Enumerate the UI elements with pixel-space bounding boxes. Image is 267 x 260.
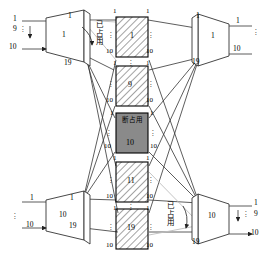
- mid-5-bottom-right: 10: [146, 242, 153, 249]
- mid-5-left-dots: ...: [110, 222, 112, 230]
- mid-2-right-dots: ...: [150, 79, 152, 87]
- mid-5-bottom-left: 10: [106, 242, 113, 249]
- in-top-label-1: 1: [13, 15, 17, 23]
- out-top-in-1: 1: [196, 12, 200, 20]
- occupied-label-top: 已占用: [95, 21, 104, 47]
- out-bottom-out-10: 10: [251, 229, 259, 237]
- mid-3-right-dots: ...: [152, 128, 154, 136]
- out-top-module-label: 1: [211, 32, 215, 40]
- in-top-out-1: 1: [68, 12, 72, 20]
- mid-4-top-right: 1: [146, 155, 150, 162]
- mid-1-bottom-right: 10: [146, 48, 153, 55]
- mid-1-inner: 1: [130, 32, 134, 40]
- mid-1-top-left: 1: [113, 8, 117, 15]
- in-bottom-label-10: 10: [26, 221, 34, 229]
- mid-5-top-left: 1: [113, 205, 117, 212]
- in-bottom-out-1: 1: [70, 194, 74, 202]
- input-module-bottom[interactable]: [46, 191, 90, 244]
- mid-5-inner: 19: [127, 224, 135, 232]
- in-top-dots: ...: [22, 24, 24, 32]
- out-bottom-module-label: 10: [208, 212, 216, 220]
- out-top-out-10: 10: [233, 45, 241, 53]
- mid-4-inner: 11: [127, 177, 135, 185]
- occupied-label-bottom: 已占用: [166, 202, 175, 228]
- mid-3-top-right: 1: [150, 110, 154, 117]
- mid-3-inner: 10: [126, 139, 134, 147]
- mid-3-bottom-right: 10: [150, 143, 157, 150]
- out-top-in-19: 19: [192, 58, 200, 66]
- mid-4-top-left: 1: [113, 155, 117, 162]
- mid-4-bottom-right: 10: [146, 193, 153, 200]
- in-bottom-dots: ...: [14, 211, 16, 219]
- mid-1-left-dots: ...: [110, 30, 112, 38]
- mid-4-right-dots: ...: [150, 175, 152, 183]
- in-bottom-out-19: 19: [69, 222, 77, 230]
- mid-3-left-dots: ...: [108, 128, 110, 136]
- middle-box-2[interactable]: [116, 66, 148, 106]
- in-bottom-label-1: 1: [30, 194, 34, 202]
- mid-2-bottom-right: 10: [146, 97, 153, 104]
- mid-gap-1-dots: ...: [130, 58, 132, 66]
- mid-2-inner: 9: [128, 81, 132, 89]
- mid-3-top-left: 1: [110, 110, 114, 117]
- in-top-out-19: 19: [64, 59, 72, 67]
- mid-2-top-right: 1: [146, 60, 150, 67]
- out-bottom-dots: ...: [245, 209, 247, 217]
- out-bottom-out-9: 9: [254, 210, 258, 218]
- in-top-label-10: 10: [9, 43, 17, 51]
- mid-4-left-dots: ...: [110, 175, 112, 183]
- mid-gap-4-dots: ...: [130, 202, 132, 210]
- mid-2-left-dots: ...: [110, 79, 112, 87]
- mid-1-bottom-left: 10: [106, 48, 113, 55]
- in-bottom-module-label: 10: [59, 211, 67, 219]
- mid-3-bottom-left: 10: [104, 143, 111, 150]
- out-top-out-1: 1: [236, 17, 240, 25]
- mid-5-right-dots: ...: [150, 222, 152, 230]
- mid-1-top-right: 1: [146, 8, 150, 15]
- input-lines-top: [22, 21, 46, 49]
- out-top-dots: ...: [255, 27, 257, 35]
- in-top-label-9: 9: [13, 25, 17, 33]
- output-lines-bottom: [229, 206, 252, 234]
- mid-2-bottom-left: 10: [106, 97, 113, 104]
- out-bottom-out-1: 1: [254, 199, 258, 207]
- in-top-module-label: 1: [62, 31, 66, 39]
- switching-network-diagram: 1 9 10 ... 1 1 19 1 10 ... 10 1 19 1 1 1…: [0, 0, 267, 260]
- mid-5-top-right: 1: [146, 205, 150, 212]
- mid-3-status-text: 断占用: [118, 116, 146, 124]
- mid-4-bottom-left: 10: [106, 193, 113, 200]
- mid-1-right-dots: ...: [150, 30, 152, 38]
- mid-2-top-left: 1: [113, 60, 117, 67]
- out-bottom-in-19: 19: [192, 238, 200, 246]
